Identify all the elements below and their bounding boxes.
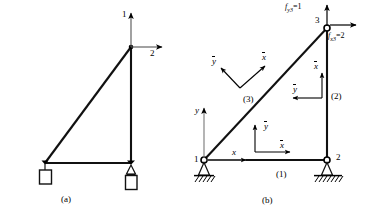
local-ybar-text-2: y [293,84,297,94]
global-y-axis-label: y [195,106,199,115]
force-value-fx3: =2 [336,31,345,40]
node-label-2: 2 [336,153,341,162]
support-node-2-b [314,163,343,183]
node-label-3: 3 [315,16,320,25]
caption-b: (b) [262,196,273,205]
element-label-3: (3) [243,95,254,104]
local-ybar-text-1: y [264,121,268,131]
local-ybar-label-element-2: y [293,85,297,94]
element-label-1: (1) [276,170,287,179]
local-ybar-element-3-arrow [221,68,240,88]
support-node-1-b [194,163,215,183]
node-label-1: 1 [194,155,199,164]
element-label-2: (2) [331,92,342,101]
local-xbar-label-element-2: x [314,62,318,71]
force-value-fy3: =1 [293,2,302,11]
local-ybar-label-element-1: y [264,122,268,131]
global-x-axis-label: x [232,148,236,157]
local-xbar-label-element-1: x [280,141,284,150]
local-xbar-label-element-3: x [262,53,266,62]
dof-label-vertical-a: 1 [122,10,127,19]
local-xbar-text-3: x [262,52,266,62]
force-label-fy3: fy3=1 [285,3,301,13]
local-ybar-text-3: y [212,56,216,66]
panel-a [40,13,163,190]
truss-figure [0,0,365,216]
member-element-3-b [204,28,327,160]
force-label-fx3: fx3=2 [328,32,344,42]
local-xbar-text-1: x [280,140,284,150]
local-xbar-element-3-arrow [240,66,265,88]
member-diagonal-a [45,47,131,163]
local-xbar-text-2: x [314,61,318,71]
support-right-a [126,161,138,190]
dof-label-horizontal-a: 2 [150,49,155,58]
caption-a: (a) [61,195,71,204]
local-ybar-label-element-3: y [212,57,216,66]
